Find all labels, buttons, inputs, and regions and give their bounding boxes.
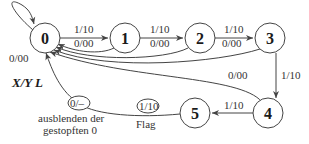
state-3-label: 3 (266, 30, 274, 47)
stuffed-zero-note-line1: ausblenden der (38, 112, 105, 124)
state-5-label: 5 (191, 105, 199, 122)
state-4: 4 (253, 98, 283, 128)
state-1: 1 (110, 23, 140, 53)
state-4-label: 4 (264, 105, 272, 122)
stuffed-zero-label: 0/– (70, 97, 85, 109)
edge-0-0 (12, 2, 34, 30)
edge-label-1-0: 0/00 (74, 37, 94, 49)
legend-label: X/Y L (11, 75, 43, 90)
edge-label-0-0: 0/00 (9, 52, 29, 64)
diagram-svg: 0/00 1/10 0/00 1/10 0/00 1/10 0/00 1/10 … (0, 0, 309, 144)
edge-label-4-0: 0/00 (228, 69, 248, 81)
state-5: 5 (180, 98, 210, 128)
flag-label: 1/10 (139, 100, 159, 112)
flag-note: Flag (136, 118, 156, 130)
state-2: 2 (185, 23, 215, 53)
edge-label-2-3: 1/10 (224, 23, 244, 35)
state-0-label: 0 (41, 30, 49, 47)
edge-label-2-0: 0/00 (150, 37, 170, 49)
edge-label-0-1: 1/10 (74, 23, 94, 35)
state-2-label: 2 (196, 30, 204, 47)
edge-label-3-0: 0/00 (222, 37, 242, 49)
state-3: 3 (255, 23, 285, 53)
stuffed-zero-note-line2: gestopften 0 (43, 124, 98, 136)
state-0: 0 (30, 23, 60, 53)
edge-label-3-4: 1/10 (281, 69, 301, 81)
edge-label-4-5: 1/10 (224, 99, 244, 111)
state-diagram: 0/00 1/10 0/00 1/10 0/00 1/10 0/00 1/10 … (0, 0, 309, 144)
edge-label-1-2: 1/10 (150, 23, 170, 35)
state-1-label: 1 (121, 30, 129, 47)
